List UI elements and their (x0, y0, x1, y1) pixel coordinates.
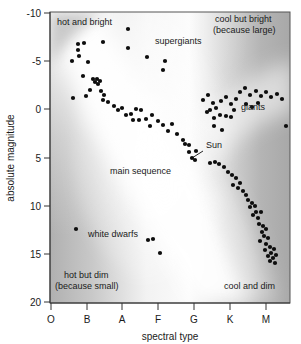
y-tick-label-0: -10 (27, 8, 42, 19)
scatter-point (238, 90, 242, 94)
scatter-point (193, 158, 197, 162)
region-label-hot-and-bright: hot and bright (57, 17, 113, 27)
scatter-point (219, 99, 223, 103)
x-tick-labels: O B A F G K M (47, 314, 270, 325)
scatter-point (241, 189, 245, 193)
scatter-point (251, 213, 255, 217)
scatter-point (268, 259, 272, 263)
scatter-point (129, 112, 133, 116)
scatter-point (232, 108, 236, 112)
x-tick-label-K: K (227, 314, 234, 325)
y-axis-title: absolute magnitude (5, 114, 16, 202)
y-axis: -10 -5 0 5 10 15 20 absolute magnitude (5, 8, 50, 308)
scatter-point (264, 90, 268, 94)
y-tick-label-5: 15 (30, 249, 42, 260)
feature-label-sun: Sun (206, 140, 222, 150)
scatter-point (163, 59, 167, 63)
scatter-point (266, 236, 270, 240)
x-tick-label-O: O (47, 314, 55, 325)
scatter-point (86, 60, 90, 64)
scatter-point (213, 160, 217, 164)
scatter-point (236, 186, 240, 190)
scatter-point (234, 97, 238, 101)
scatter-point (229, 115, 233, 119)
scatter-point (131, 118, 135, 122)
scatter-point (254, 210, 258, 214)
scatter-point (102, 93, 106, 97)
scatter-point (181, 138, 185, 142)
scatter-point (161, 68, 165, 72)
scatter-point (274, 253, 278, 257)
scatter-point (166, 129, 170, 133)
x-tick-label-A: A (119, 314, 126, 325)
scatter-point (137, 118, 141, 122)
scatter-point (222, 165, 226, 169)
scatter-point (259, 210, 263, 214)
feature-label-supergiants: supergiants (155, 36, 202, 46)
scatter-point (106, 100, 110, 104)
scatter-point (82, 41, 86, 45)
scatter-point (70, 59, 74, 63)
scatter-point (234, 176, 238, 180)
scatter-point (151, 237, 155, 241)
scatter-point (74, 227, 78, 231)
scatter-point (98, 79, 102, 83)
scatter-point (262, 234, 266, 238)
scatter-point (76, 48, 80, 52)
scatter-point (248, 205, 252, 209)
scatter-point (244, 193, 248, 197)
scatter-point (101, 98, 105, 102)
y-tick-marks (44, 13, 50, 302)
scatter-point (214, 106, 218, 110)
scatter-point (84, 94, 88, 98)
x-tick-marks (51, 303, 266, 310)
scatter-point (146, 238, 150, 242)
x-tick-label-F: F (155, 314, 161, 325)
y-tick-label-3: 5 (35, 153, 41, 164)
scatter-point (257, 222, 261, 226)
scatter-point (212, 116, 216, 120)
region-label-cool-but-bright-2: (because large) (213, 25, 276, 35)
scatter-point (253, 204, 257, 208)
scatter-point (238, 181, 242, 185)
scatter-point (212, 124, 216, 128)
scatter-point (280, 97, 284, 101)
scatter-point (126, 27, 130, 31)
scatter-point (248, 93, 252, 97)
scatter-point (258, 239, 262, 243)
scatter-point (264, 242, 268, 246)
scatter-point (158, 251, 162, 255)
scatter-point (170, 122, 174, 126)
scatter-point (271, 256, 275, 260)
scatter-point (76, 42, 80, 46)
y-tick-label-1: -5 (32, 56, 41, 67)
scatter-point (224, 114, 228, 118)
scatter-point (272, 247, 276, 251)
feature-label-main-sequence: main sequence (110, 166, 171, 176)
scatter-point (148, 124, 152, 128)
scatter-point (269, 95, 273, 99)
x-tick-label-M: M (262, 314, 270, 325)
scatter-point (261, 224, 265, 228)
scatter-point (81, 74, 85, 78)
hr-diagram-svg: -10 -5 0 5 10 15 20 absolute magnitude (0, 0, 301, 344)
scatter-point (273, 261, 277, 265)
x-tick-label-B: B (84, 314, 91, 325)
scatter-point (229, 102, 233, 106)
scatter-point (145, 55, 149, 59)
y-tick-label-2: 0 (35, 104, 41, 115)
scatter-point (259, 94, 263, 98)
scatter-point (269, 251, 273, 255)
scatter-point (243, 86, 247, 90)
scatter-point (206, 93, 210, 97)
scatter-point (88, 88, 92, 92)
plot-background (42, 4, 295, 303)
scatter-point (175, 132, 179, 136)
scatter-point (205, 110, 209, 114)
scatter-point (201, 98, 205, 102)
scatter-point (134, 107, 138, 111)
scatter-point (187, 143, 191, 147)
scatter-point (266, 254, 270, 258)
x-axis: O B A F G K M spectral type (47, 303, 290, 342)
scatter-point (231, 183, 235, 187)
